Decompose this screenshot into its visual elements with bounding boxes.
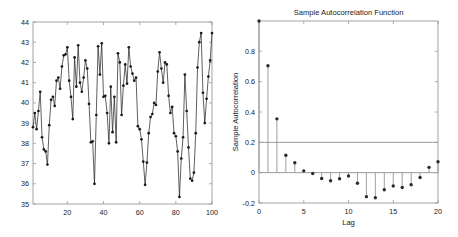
svg-text:100: 100 [206, 208, 218, 217]
svg-text:10: 10 [345, 207, 353, 216]
timeseries-x-ticks: 20406080100 [63, 22, 218, 217]
svg-text:5: 5 [302, 207, 306, 216]
svg-text:Sample Autocorrelation: Sample Autocorrelation [231, 73, 240, 152]
svg-text:20: 20 [63, 208, 71, 217]
acf-chart: Sample Autocorrelation Function 05101520… [229, 0, 458, 237]
svg-text:-0.2: -0.2 [243, 199, 255, 208]
svg-text:41: 41 [21, 78, 29, 87]
svg-text:39: 39 [21, 119, 29, 128]
svg-text:42: 42 [21, 58, 29, 67]
acf-panel: Sample Autocorrelation Function 05101520… [229, 0, 458, 237]
svg-text:60: 60 [136, 208, 144, 217]
svg-text:40: 40 [21, 98, 29, 107]
svg-text:80: 80 [172, 208, 180, 217]
svg-text:Sample Autocorrelation Functio: Sample Autocorrelation Function [294, 8, 404, 17]
acf-stems [259, 21, 438, 198]
svg-text:36: 36 [21, 179, 29, 188]
svg-text:0.2: 0.2 [245, 138, 255, 147]
svg-text:38: 38 [21, 139, 29, 148]
svg-text:43: 43 [21, 38, 29, 47]
svg-text:Lag: Lag [342, 218, 355, 227]
svg-text:35: 35 [21, 200, 29, 209]
figure-root: 20406080100 35363738394041424344 Sample … [0, 0, 458, 237]
svg-text:44: 44 [21, 18, 29, 27]
svg-text:0.6: 0.6 [245, 77, 255, 86]
acf-x-ticks: 05101520 [257, 21, 442, 216]
svg-text:40: 40 [100, 208, 108, 217]
timeseries-data-markers [32, 32, 214, 198]
svg-text:0: 0 [251, 168, 255, 177]
timeseries-panel: 20406080100 35363738394041424344 [0, 0, 229, 237]
svg-text:0.4: 0.4 [245, 108, 255, 117]
acf-y-ticks: -0.200.20.40.60.8 [243, 47, 438, 208]
acf-title-group: Sample Autocorrelation Function [294, 8, 404, 17]
svg-text:37: 37 [21, 159, 29, 168]
svg-text:15: 15 [389, 207, 397, 216]
svg-text:20: 20 [434, 207, 442, 216]
timeseries-chart: 20406080100 35363738394041424344 [0, 0, 229, 237]
svg-text:0.8: 0.8 [245, 47, 255, 56]
timeseries-axes-box [33, 22, 212, 204]
svg-text:0: 0 [257, 207, 261, 216]
